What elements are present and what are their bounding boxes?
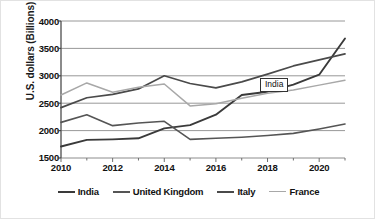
legend-label: United Kingdom	[133, 186, 204, 197]
legend-label: India	[78, 186, 99, 197]
legend-item-italy[interactable]: Italy	[217, 186, 255, 197]
legend-item-france[interactable]: France	[269, 186, 319, 197]
y-tick-2000: 2000	[21, 126, 59, 136]
x-axis-tick-labels: 2010 2012 2014 2016 2018 2020	[61, 162, 345, 176]
legend-swatch-icon	[217, 191, 234, 193]
x-tick-2018: 2018	[248, 162, 288, 174]
x-tick-2020: 2020	[299, 162, 339, 174]
legend-swatch-icon	[269, 191, 286, 192]
chart-screenshot: U.S. dollars (Billions) 4000 3500 3000 2…	[0, 0, 375, 219]
x-tick-2014: 2014	[144, 162, 184, 174]
annotation-india-label: India	[260, 78, 288, 92]
y-tick-3500: 3500	[21, 44, 59, 54]
x-tick-2010: 2010	[41, 162, 81, 174]
series-line-united-kingdom	[61, 115, 345, 140]
legend-item-united-kingdom[interactable]: United Kingdom	[113, 186, 204, 197]
series-line-france	[61, 80, 345, 106]
legend-swatch-icon	[58, 191, 75, 193]
x-tick-2016: 2016	[196, 162, 236, 174]
legend-label: France	[289, 186, 319, 197]
legend-label: Italy	[237, 186, 255, 197]
legend-item-india[interactable]: India	[58, 186, 99, 197]
chart-canvas	[61, 21, 345, 158]
plot-area	[61, 21, 345, 158]
x-tick-2012: 2012	[93, 162, 133, 174]
y-tick-3000: 3000	[21, 71, 59, 81]
legend-swatch-icon	[113, 191, 130, 193]
y-tick-2500: 2500	[21, 99, 59, 109]
y-tick-4000: 4000	[21, 17, 59, 27]
chart-legend: IndiaUnited KingdomItalyFrance	[1, 186, 375, 197]
